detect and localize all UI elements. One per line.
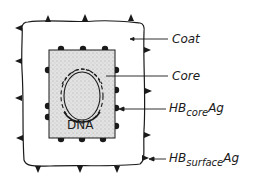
hb-surface-ag-sub: surface: [186, 157, 223, 168]
hb-core-ag-label: HBcoreAg: [169, 102, 224, 118]
hb-core-ag-sub: core: [186, 107, 208, 118]
virus-diagram: DNA Coat Core HBcoreAg HBsurfaceAg: [0, 0, 253, 184]
coat-label: Coat: [172, 33, 200, 45]
hb-surface-ag-label: HBsurfaceAg: [169, 152, 239, 168]
core-label: Core: [172, 70, 200, 82]
hb-core-ag-prefix: HB: [169, 101, 186, 115]
hb-core-ag-suffix: Ag: [208, 101, 224, 115]
hb-surface-ag-prefix: HB: [169, 151, 186, 165]
hb-surface-ag-suffix: Ag: [223, 151, 239, 165]
dna-label: DNA: [67, 119, 93, 131]
